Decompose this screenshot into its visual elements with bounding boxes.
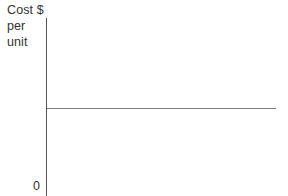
y-axis-title-line-2: per (7, 18, 47, 34)
y-axis-title-line-3: unit (7, 34, 47, 50)
y-axis-title-line-1: Cost $ (7, 2, 47, 18)
chart-figure: Cost $ per unit 0 (0, 0, 288, 196)
cost-per-unit-series-line (47, 108, 276, 109)
y-axis-title: Cost $ per unit (7, 2, 47, 50)
origin-tick-label: 0 (33, 179, 40, 193)
y-axis-line (46, 18, 47, 196)
